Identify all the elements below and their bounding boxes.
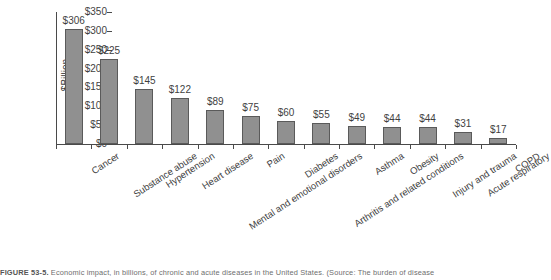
x-category-label: Mental and emotional disorders bbox=[248, 151, 365, 232]
bar-value-label: $49 bbox=[337, 113, 377, 123]
bar-value-label: $44 bbox=[372, 114, 412, 124]
bar bbox=[206, 110, 224, 144]
bar bbox=[135, 89, 153, 144]
x-tick-mark bbox=[233, 145, 234, 149]
y-tick-mark bbox=[107, 12, 112, 13]
x-tick-mark bbox=[481, 145, 482, 149]
bar bbox=[312, 123, 330, 144]
bar bbox=[100, 59, 118, 144]
bar bbox=[65, 29, 83, 144]
x-category-label: Asthma bbox=[373, 151, 405, 177]
bar bbox=[277, 121, 295, 144]
bar-value-label: $75 bbox=[231, 103, 271, 113]
x-tick-mark bbox=[198, 145, 199, 149]
bar-value-label: $44 bbox=[408, 114, 448, 124]
figure-caption: FIGURE 53-5. Economic impact, in billion… bbox=[0, 268, 536, 277]
bar-value-label: $31 bbox=[443, 119, 483, 129]
x-tick-mark bbox=[268, 145, 269, 149]
plot-area: $Billion $0$50$100$150$200$250$300$350 $… bbox=[56, 12, 516, 144]
x-tick-mark bbox=[516, 145, 517, 149]
x-category-label: Pain bbox=[265, 151, 286, 170]
bar-value-label: $225 bbox=[89, 46, 129, 56]
bar-value-label: $55 bbox=[301, 110, 341, 120]
x-tick-mark bbox=[374, 145, 375, 149]
bar bbox=[171, 98, 189, 144]
figure-number: FIGURE 53-5. bbox=[0, 268, 49, 277]
bar-value-label: $122 bbox=[160, 85, 200, 95]
bar bbox=[242, 116, 260, 144]
x-tick-mark bbox=[91, 145, 92, 149]
bar-value-label: $17 bbox=[478, 125, 518, 135]
bar-value-label: $60 bbox=[266, 108, 306, 118]
x-tick-mark bbox=[162, 145, 163, 149]
x-tick-mark bbox=[410, 145, 411, 149]
y-tick-mark bbox=[107, 31, 112, 32]
bar bbox=[348, 126, 366, 144]
x-category-label: Cancer bbox=[90, 151, 121, 176]
x-tick-mark bbox=[304, 145, 305, 149]
x-tick-mark bbox=[127, 145, 128, 149]
x-tick-mark bbox=[445, 145, 446, 149]
bar-value-label: $306 bbox=[54, 16, 94, 26]
x-tick-mark bbox=[339, 145, 340, 149]
y-axis-line bbox=[56, 12, 57, 145]
figure-caption-text: Economic impact, in billions, of chronic… bbox=[49, 268, 435, 277]
x-tick-mark bbox=[56, 145, 57, 149]
bar bbox=[454, 132, 472, 144]
bar-value-label: $89 bbox=[195, 97, 235, 107]
x-axis-line bbox=[56, 144, 516, 145]
bar-value-label: $145 bbox=[124, 76, 164, 86]
bar bbox=[383, 127, 401, 144]
x-category-label: Arthritis and related conditions bbox=[353, 151, 466, 229]
bar bbox=[419, 127, 437, 144]
